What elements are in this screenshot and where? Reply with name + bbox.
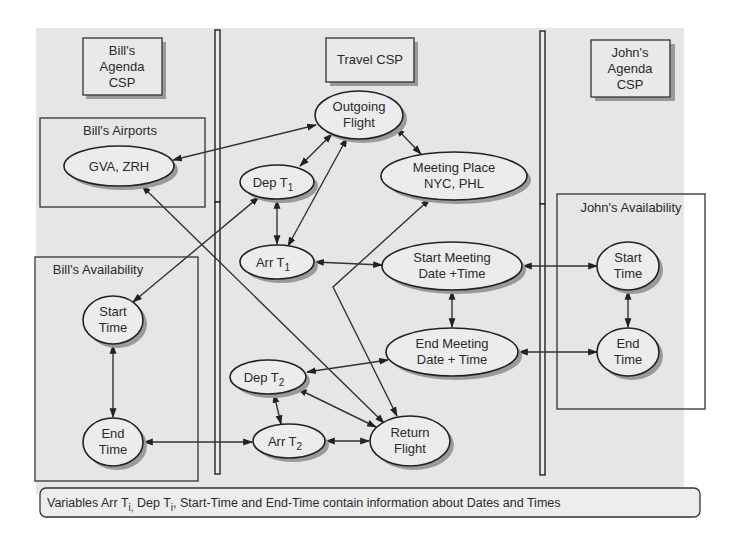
outgoing-flight-label-1: Outgoing	[333, 99, 386, 114]
johns-agenda-title-line1: John's	[611, 45, 649, 60]
separator-bar-left	[215, 30, 220, 202]
end-meeting-label-2: Date + Time	[417, 352, 487, 367]
johns-agenda-title-line3: CSP	[617, 77, 644, 92]
bill-end-label-2: Time	[99, 442, 127, 457]
travel-csp-box: Travel CSP	[326, 38, 418, 86]
bill-start-label-1: Start	[99, 304, 127, 319]
bill-start-label-2: Time	[99, 320, 127, 335]
john-end-label-1: End	[616, 336, 639, 351]
diagram-canvas: Bill's Agenda CSP Travel CSP John's Agen…	[0, 0, 736, 544]
bills-airports-label: Bill's Airports	[83, 123, 158, 138]
start-meeting-label-2: Date +Time	[418, 266, 485, 281]
caption-box: Variables Arr Ti, Dep Ti, Start-Time and…	[40, 488, 700, 517]
outgoing-flight-label-2: Flight	[343, 115, 375, 130]
bill-end-label-1: End	[101, 426, 124, 441]
start-meeting-label-1: Start Meeting	[413, 250, 490, 265]
john-start-label-1: Start	[614, 250, 642, 265]
separator-bar-right	[540, 31, 545, 204]
end-meeting-label-1: End Meeting	[416, 336, 489, 351]
john-end-label-2: Time	[614, 352, 642, 367]
gva-zrh-label: GVA, ZRH	[89, 159, 149, 174]
johns-availability-label: John's Availability	[580, 200, 682, 215]
return-flight-label-2: Flight	[394, 441, 426, 456]
bills-agenda-csp-box: Bill's Agenda CSP	[83, 38, 166, 99]
bills-agenda-title-line2: Agenda	[100, 59, 146, 74]
johns-agenda-title-line2: Agenda	[608, 61, 654, 76]
separator-bar-left-lower	[215, 202, 220, 474]
meeting-place-label-1: Meeting Place	[413, 160, 495, 175]
travel-csp-title: Travel CSP	[337, 52, 403, 67]
john-start-label-2: Time	[614, 266, 642, 281]
bills-agenda-title-line3: CSP	[109, 75, 136, 90]
bills-availability-label: Bill's Availability	[53, 262, 144, 277]
meeting-place-label-2: NYC, PHL	[424, 176, 484, 191]
separator-bar-right-lower	[540, 204, 545, 475]
return-flight-label-1: Return	[390, 425, 429, 440]
bills-agenda-title-line1: Bill's	[109, 43, 136, 58]
johns-agenda-csp-box: John's Agenda CSP	[591, 40, 675, 101]
